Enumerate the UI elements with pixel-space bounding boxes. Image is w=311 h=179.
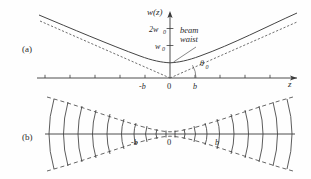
beam-envelope-upper	[47, 97, 293, 132]
beam-waist-leader	[174, 47, 197, 62]
panel-b-label: (b)	[22, 132, 33, 142]
tick-label-zero: 0	[167, 81, 171, 91]
panel-a: (a) w(z) z 2w 0 w 0 beam waist θ	[22, 7, 297, 91]
divergence-angle-arc	[193, 65, 197, 78]
w0-label: w 0	[155, 42, 165, 53]
figure-page: (a) w(z) z 2w 0 w 0 beam waist θ	[0, 0, 311, 179]
two-w0-text: 2w	[149, 25, 159, 34]
w-axis-label: w(z)	[147, 7, 163, 17]
theta-subscript: 0	[206, 64, 209, 70]
w0-text: w	[155, 42, 161, 51]
panel-a-label: (a)	[22, 44, 32, 54]
gaussian-beam-figure: (a) w(z) z 2w 0 w 0 beam waist θ	[0, 0, 311, 179]
two-w0-label: 2w 0	[149, 25, 166, 36]
z-axis-label: z	[287, 79, 292, 89]
w0-subscript: 0	[162, 46, 165, 52]
tick-label-b: b	[193, 82, 197, 91]
beam-waist-line2: waist	[180, 34, 199, 44]
panel-b-label-b: b	[215, 138, 219, 147]
two-w0-subscript: 0	[163, 29, 166, 35]
tick-label-minus-b: -b	[139, 82, 146, 91]
theta-text: θ	[200, 59, 204, 68]
panel-b-label-zero: 0	[167, 137, 171, 147]
z-axis-ticks	[45, 75, 270, 78]
divergence-angle-label: θ 0	[200, 59, 209, 70]
beam-waist-label: beam waist	[180, 25, 199, 44]
panel-b: (b)	[22, 97, 295, 171]
panel-b-label-minus-b: -b	[131, 138, 138, 147]
